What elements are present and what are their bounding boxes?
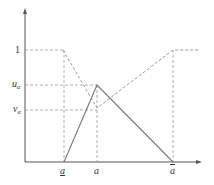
y-label-one: 1 xyxy=(15,45,20,55)
x-label-a: a xyxy=(94,166,99,176)
x-label-a-upper: a xyxy=(170,166,175,176)
nonmembership-curve xyxy=(63,50,200,108)
membership-curve xyxy=(64,85,173,162)
y-axis-arrow-icon xyxy=(23,8,27,14)
x-label-a-lower: a xyxy=(60,166,65,176)
y-label-v-alpha: vα xyxy=(13,104,21,115)
diagram-canvas xyxy=(0,0,214,185)
x-axis-arrow-icon xyxy=(196,160,202,164)
y-label-u-alpha: uα xyxy=(12,79,20,90)
